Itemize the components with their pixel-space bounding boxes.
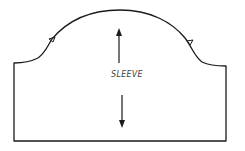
piece-label: SLEEVE xyxy=(97,70,157,79)
grainline-down-arrow-icon xyxy=(119,95,125,128)
grainline-up-arrow-icon xyxy=(116,28,122,63)
notch-right-icon xyxy=(187,40,193,45)
